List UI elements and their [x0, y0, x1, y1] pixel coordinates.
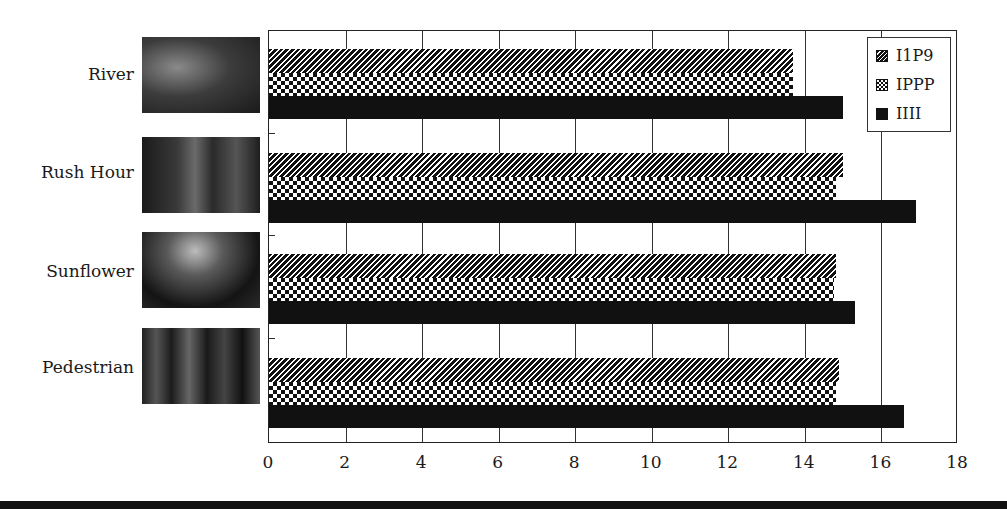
pedestrian-thumbnail: [142, 328, 260, 404]
category-label-pedestrian: Pedestrian: [4, 357, 134, 377]
checkerboard-swatch-icon: [876, 79, 888, 91]
legend-item-iiii: IIII: [876, 104, 921, 123]
legend-label: IPPP: [896, 75, 935, 94]
sunflower-thumbnail: [142, 232, 260, 308]
x-tick-label: 8: [569, 452, 580, 472]
legend-item-ippp: IPPP: [876, 75, 935, 94]
x-tick-label: 18: [946, 452, 968, 472]
bar-rush-hour-ippp: [269, 177, 836, 200]
category-label-sunflower: Sunflower: [4, 261, 134, 281]
y-tick: [269, 133, 275, 134]
x-tick-label: 16: [870, 452, 892, 472]
category-label-rush-hour: Rush Hour: [4, 162, 134, 182]
bar-river-iiii: [269, 96, 843, 119]
rush-hour-thumbnail: [142, 137, 260, 213]
bar-pedestrian-i1p9: [269, 358, 839, 382]
bar-pedestrian-iiii: [269, 405, 904, 428]
bar-sunflower-ippp: [269, 278, 834, 301]
x-tick-label: 14: [793, 452, 815, 472]
legend-label: IIII: [896, 104, 921, 123]
x-tick-label: 12: [717, 452, 739, 472]
x-tick-label: 0: [263, 452, 274, 472]
river-thumbnail: [142, 37, 260, 113]
y-tick: [269, 338, 275, 339]
bar-chart: River Rush Hour Sunflower Pedestrian 024…: [0, 0, 1007, 509]
legend: I1P9 IPPP IIII: [867, 37, 951, 132]
bar-rush-hour-i1p9: [269, 153, 843, 177]
diagonal-hatch-swatch-icon: [876, 50, 888, 62]
legend-label: I1P9: [896, 46, 933, 65]
x-tick-label: 2: [339, 452, 350, 472]
bar-sunflower-iiii: [269, 301, 855, 324]
x-tick-label: 4: [416, 452, 427, 472]
y-tick: [269, 235, 275, 236]
x-tick-label: 10: [640, 452, 662, 472]
bar-river-i1p9: [269, 49, 793, 73]
bar-sunflower-i1p9: [269, 254, 836, 278]
bar-river-ippp: [269, 73, 793, 96]
bar-rush-hour-iiii: [269, 200, 916, 223]
bottom-rule: [0, 501, 1007, 509]
solid-swatch-icon: [876, 108, 888, 120]
legend-item-i1p9: I1P9: [876, 46, 933, 65]
x-tick-label: 6: [492, 452, 503, 472]
plot-area: [268, 30, 957, 443]
category-label-river: River: [4, 64, 134, 84]
bar-pedestrian-ippp: [269, 382, 836, 405]
